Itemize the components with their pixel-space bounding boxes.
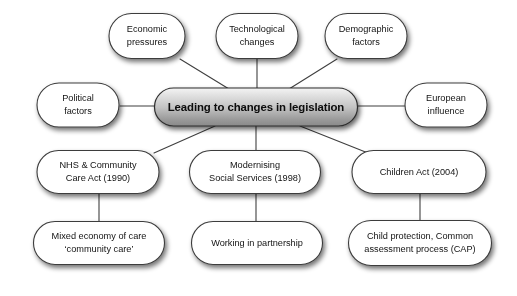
center-node-layer: Leading to changes in legislation <box>155 88 358 126</box>
connector-demographic-to-center <box>289 59 337 89</box>
node-shape-technological-changes <box>216 14 298 59</box>
node-label-political-factors-line1: Political <box>62 93 94 103</box>
node-label-modernising-social-services-line1: Modernising <box>230 160 280 170</box>
node-shape-political-factors <box>37 83 119 127</box>
node-political-factors[interactable]: Politicalfactors <box>37 83 119 127</box>
node-label-demographic-factors-line2: factors <box>352 37 380 47</box>
node-label-child-protection-cap-line2: assessment process (CAP) <box>364 244 475 254</box>
node-label-mixed-economy-of-care-line1: Mixed economy of care <box>52 231 147 241</box>
node-label-european-influence-line1: European <box>426 93 466 103</box>
node-shape-modernising-social-services <box>190 151 321 194</box>
node-shape-mixed-economy-of-care <box>34 222 165 265</box>
connector-economic-to-center <box>180 59 229 89</box>
node-economic-pressures[interactable]: Economicpressures <box>109 14 185 59</box>
node-shape-european-influence <box>405 83 487 127</box>
node-nhs-community-care-act[interactable]: NHS & CommunityCare Act (1990) <box>37 151 159 194</box>
node-label-child-protection-cap-line1: Child protection, Common <box>367 231 473 241</box>
node-label-demographic-factors-line1: Demographic <box>339 24 394 34</box>
connectors-layer <box>99 59 420 223</box>
node-working-in-partnership[interactable]: Working in partnership <box>192 222 323 265</box>
node-modernising-social-services[interactable]: ModernisingSocial Services (1998) <box>190 151 321 194</box>
connector-center-to-nhs <box>154 126 215 153</box>
node-european-influence[interactable]: Europeaninfluence <box>405 83 487 127</box>
node-label-nhs-community-care-act-line1: NHS & Community <box>59 160 136 170</box>
node-label-european-influence-line2: influence <box>428 106 465 116</box>
node-label-economic-pressures-line2: pressures <box>127 37 168 47</box>
node-mixed-economy-of-care[interactable]: Mixed economy of care‘community care’ <box>34 222 165 265</box>
center-node-label: Leading to changes in legislation <box>168 101 345 113</box>
mind-map-diagram: EconomicpressuresTechnologicalchangesDem… <box>0 0 517 296</box>
node-label-modernising-social-services-line2: Social Services (1998) <box>209 173 301 183</box>
nodes-layer: EconomicpressuresTechnologicalchangesDem… <box>34 14 492 266</box>
node-label-technological-changes-line1: Technological <box>229 24 285 34</box>
node-shape-economic-pressures <box>109 14 185 59</box>
node-demographic-factors[interactable]: Demographicfactors <box>325 14 407 59</box>
node-shape-nhs-community-care-act <box>37 151 159 194</box>
node-label-working-in-partnership: Working in partnership <box>211 238 303 248</box>
node-label-economic-pressures-line1: Economic <box>127 24 168 34</box>
node-child-protection-cap[interactable]: Child protection, Commonassessment proce… <box>349 221 492 266</box>
node-technological-changes[interactable]: Technologicalchanges <box>216 14 298 59</box>
node-label-children-act: Children Act (2004) <box>380 167 459 177</box>
node-center[interactable]: Leading to changes in legislation <box>155 88 358 126</box>
node-shape-demographic-factors <box>325 14 407 59</box>
node-label-mixed-economy-of-care-line2: ‘community care’ <box>65 244 134 254</box>
node-label-technological-changes-line2: changes <box>240 37 275 47</box>
connector-center-to-children <box>300 126 368 153</box>
node-label-political-factors-line2: factors <box>64 106 92 116</box>
node-label-nhs-community-care-act-line2: Care Act (1990) <box>66 173 130 183</box>
diagram-canvas: EconomicpressuresTechnologicalchangesDem… <box>0 0 517 296</box>
node-children-act[interactable]: Children Act (2004) <box>352 151 486 194</box>
node-shape-child-protection-cap <box>349 221 492 266</box>
